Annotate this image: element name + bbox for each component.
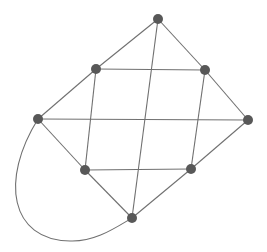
edge-right-lower-right <box>191 120 248 169</box>
edge-top-upper-right <box>158 19 205 70</box>
node-left <box>33 114 43 124</box>
node-upper-right <box>200 65 210 75</box>
edge-lower-left-bottom <box>85 170 132 218</box>
node-lower-right <box>186 164 196 174</box>
edges-group <box>16 19 248 241</box>
edge-top-bottom <box>132 19 158 218</box>
edge-top-upper-left <box>96 19 158 69</box>
node-bottom <box>127 213 137 223</box>
node-upper-left <box>91 64 101 74</box>
edge-upper-left-left <box>38 69 96 119</box>
edge-left-bottom <box>16 119 132 241</box>
edge-upper-right-right <box>205 70 248 120</box>
nodes-group <box>33 14 253 223</box>
edge-left-lower-left <box>38 119 85 170</box>
edge-upper-left-upper-right <box>96 69 205 70</box>
node-right <box>243 115 253 125</box>
edge-left-right <box>38 119 248 120</box>
graph-diagram <box>0 0 267 252</box>
node-top <box>153 14 163 24</box>
edge-lower-right-bottom <box>132 169 191 218</box>
edge-lower-left-lower-right <box>85 169 191 170</box>
node-lower-left <box>80 165 90 175</box>
